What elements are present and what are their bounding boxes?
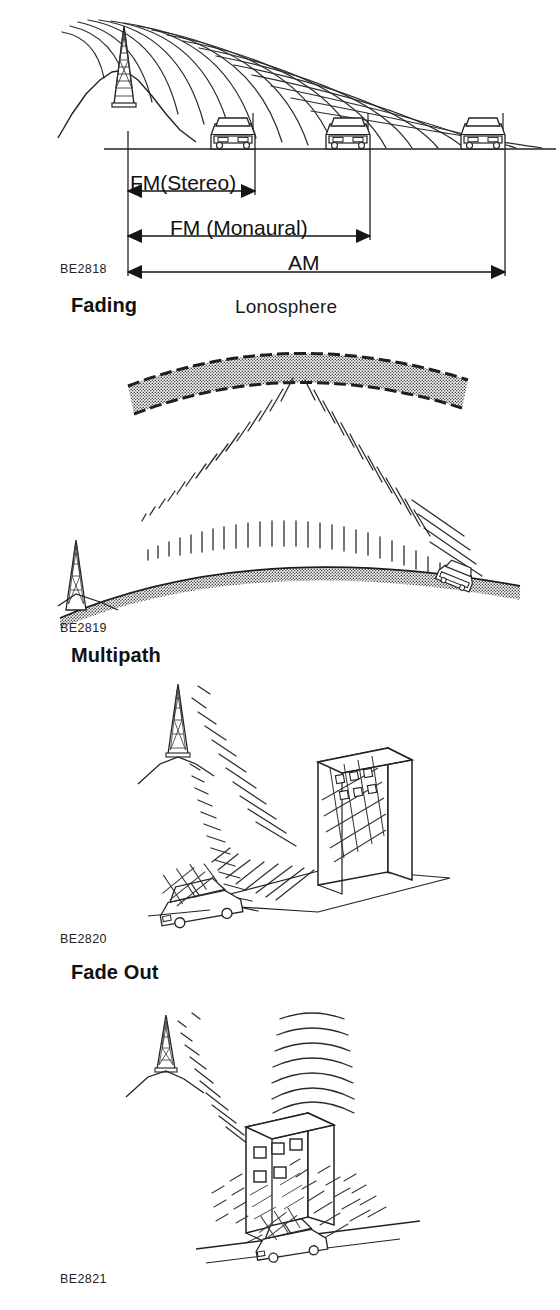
- transmitter-tower-icon: [166, 684, 190, 757]
- figure-reception-range: FM(Stereo) FM (Monaural) AM: [0, 18, 560, 288]
- building-icon: [318, 748, 412, 894]
- range-label-fm-stereo: FM(Stereo): [130, 171, 236, 195]
- overhead-wave-arcs: [272, 1013, 354, 1113]
- hill-outline: [138, 757, 214, 784]
- ionosphere-band: [128, 353, 468, 414]
- figure-caption-be2820: BE2820: [60, 932, 107, 946]
- illustration-page: FM(Stereo) FM (Monaural) AM BE2818 Fadin…: [0, 0, 560, 1310]
- figure-caption-be2819: BE2819: [60, 621, 107, 635]
- section-heading-fade-out: Fade Out: [71, 961, 158, 984]
- figure-caption-be2818: BE2818: [60, 262, 107, 276]
- section-heading-multipath: Multipath: [71, 644, 161, 667]
- figure-caption-be2821: BE2821: [60, 1272, 107, 1286]
- transmitter-tower-icon: [155, 1015, 177, 1072]
- vehicle-icon: [211, 113, 255, 149]
- hill-outline: [126, 1071, 204, 1097]
- figure-multipath: [0, 672, 560, 937]
- range-label-fm-monaural: FM (Monaural): [170, 216, 308, 240]
- vehicle-icon: [461, 113, 505, 149]
- range-label-am: AM: [288, 251, 320, 275]
- blocked-wave-beam: [178, 1013, 252, 1147]
- vehicle-icon: [152, 856, 243, 930]
- skywave-downlink: [305, 380, 430, 536]
- incident-wave-beam: [192, 686, 296, 846]
- label-ionosphere: Lonosphere: [235, 296, 337, 318]
- section-heading-fading: Fading: [71, 294, 137, 317]
- figure-fading: [0, 318, 560, 628]
- figure-fade-out: [0, 995, 560, 1275]
